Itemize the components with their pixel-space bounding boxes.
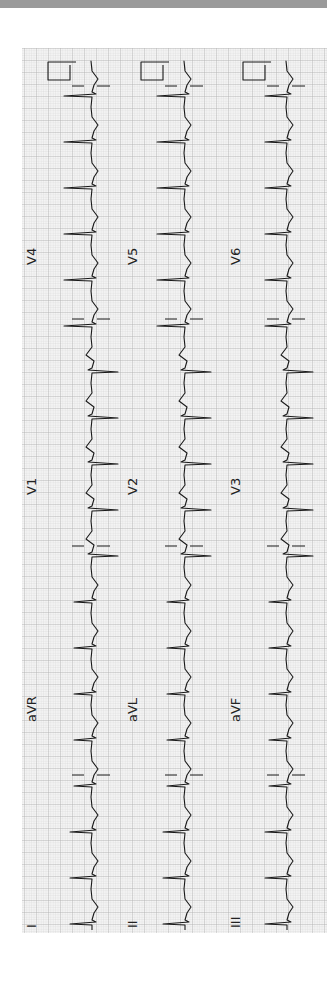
lead-label-avr: aVR xyxy=(24,696,39,722)
lead-label-ii: II xyxy=(125,920,140,928)
lead-label-v2: V2 xyxy=(125,478,140,495)
ecg-sheet: V4V5V6V1V2V3aVRaVLaVFIIIIII xyxy=(0,0,327,1004)
lead-label-v5: V5 xyxy=(125,248,140,265)
lead-label-v4: V4 xyxy=(24,248,39,265)
lead-label-avf: aVF xyxy=(228,698,243,722)
lead-label-iii: III xyxy=(228,916,243,928)
lead-label-v1: V1 xyxy=(24,478,39,495)
lead-label-i: I xyxy=(24,924,39,928)
lead-label-v6: V6 xyxy=(228,248,243,265)
lead-label-avl: aVL xyxy=(125,697,140,722)
lead-label-v3: V3 xyxy=(228,478,243,495)
